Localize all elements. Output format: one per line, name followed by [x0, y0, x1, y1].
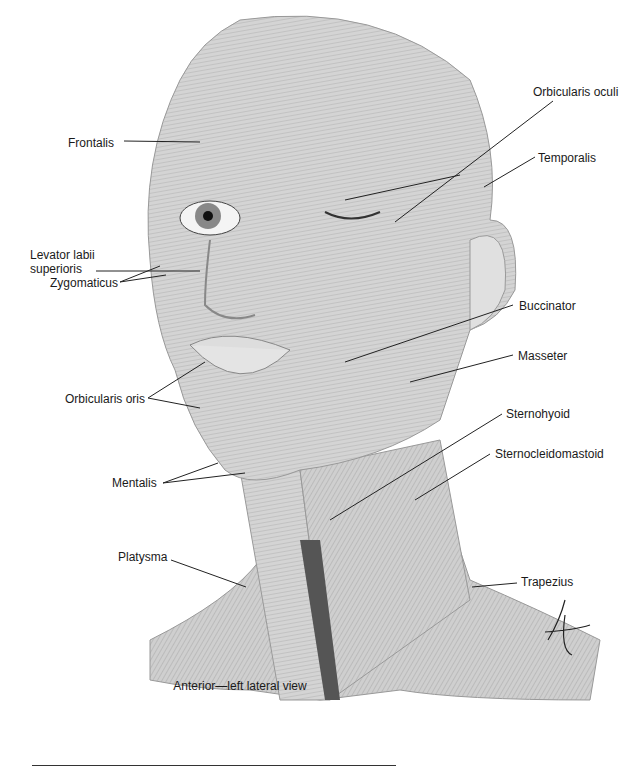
label-buccinator: Buccinator [519, 299, 576, 313]
label-levator-labii: Levator labii [30, 248, 95, 262]
head-neck-illustration [0, 0, 639, 773]
label-zygomaticus: Zygomaticus [50, 276, 118, 290]
label-orbicularis-oculi: Orbicularis oculi [533, 85, 618, 99]
label-masseter: Masseter [518, 349, 567, 363]
label-levator-superioris: superioris [30, 262, 82, 276]
anatomy-figure: Frontalis Levator labii superioris Zygom… [0, 0, 639, 773]
label-sternocleidomastoid: Sternocleidomastoid [495, 447, 604, 461]
label-mentalis: Mentalis [112, 476, 157, 490]
label-platysma: Platysma [118, 550, 167, 564]
figure-caption: Anterior—left lateral view [0, 679, 480, 693]
label-frontalis: Frontalis [68, 136, 114, 150]
label-trapezius: Trapezius [521, 575, 573, 589]
caption-rule [32, 765, 396, 766]
label-sternohyoid: Sternohyoid [506, 407, 570, 421]
label-orbicularis-oris: Orbicularis oris [65, 392, 145, 406]
label-temporalis: Temporalis [538, 151, 596, 165]
